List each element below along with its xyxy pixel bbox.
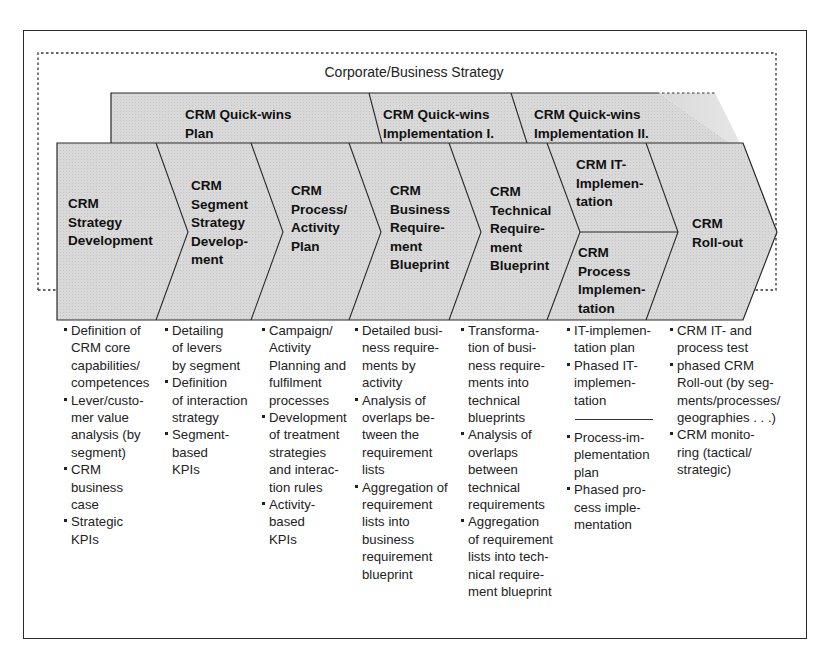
activity-item: Development of treatment strategies and … bbox=[262, 409, 347, 496]
activities-segment-strategy: Detailing of levers by segment Definitio… bbox=[165, 322, 248, 479]
phase-it-implementation: CRM IT- Implemen- tation bbox=[576, 156, 644, 212]
activity-item: Activity- based KPIs bbox=[262, 496, 347, 548]
activity-item: Phased IT- implemen- tation bbox=[567, 357, 653, 409]
activity-item: CRM IT- and process test bbox=[670, 322, 780, 357]
activities-roll-out: CRM IT- and process test phased CRM Roll… bbox=[670, 322, 780, 479]
corporate-strategy-label: Corporate/Business Strategy bbox=[0, 64, 828, 80]
activities-strategy-development: Definition of CRM core capabilities/ com… bbox=[64, 322, 149, 548]
quick-wins-plan-label: CRM Quick-wins Plan bbox=[185, 106, 292, 143]
activity-item: Campaign/ Activity Planning and fulfilme… bbox=[262, 322, 347, 409]
activity-item: IT-implemen- tation plan bbox=[567, 322, 653, 357]
phase-process-activity-plan: CRM Process/ Activity Plan bbox=[291, 182, 347, 256]
phase-strategy-development: CRM Strategy Development bbox=[68, 195, 153, 251]
activity-item: Phased pro- cess imple- mentation bbox=[567, 481, 653, 533]
activity-item: Definition of CRM core capabilities/ com… bbox=[64, 322, 149, 392]
activity-item: Segment- based KPIs bbox=[165, 426, 248, 478]
activity-item: Detailing of levers by segment bbox=[165, 322, 248, 374]
activity-item: Process-im- plementation plan bbox=[567, 429, 653, 481]
activity-item: Aggregation of requirement lists into te… bbox=[461, 513, 553, 600]
activity-item: phased CRM Roll-out (by seg- ments/proce… bbox=[670, 357, 780, 427]
activity-item: CRM monito- ring (tactical/ strategic) bbox=[670, 426, 780, 478]
activity-item: Lever/custo- mer value analysis (by segm… bbox=[64, 392, 149, 462]
activity-item: Analysis of overlaps between technical r… bbox=[461, 426, 553, 513]
quick-wins-impl-2-label: CRM Quick-wins Implementation II. bbox=[534, 106, 649, 143]
phase-technical-requirement-blueprint: CRM Technical Require- ment Blueprint bbox=[490, 183, 551, 276]
phase-process-implementation: CRM Process Implemen- tation bbox=[578, 244, 646, 318]
activities-business-requirement-blueprint: Detailed busi- ness require- ments by ac… bbox=[355, 322, 448, 583]
activity-item: Transforma- tion of busi- ness require- … bbox=[461, 322, 553, 426]
activity-item: Analysis of overlaps be- tween the requi… bbox=[355, 392, 448, 479]
activity-item: CRM business case bbox=[64, 461, 149, 513]
activity-item: Detailed busi- ness require- ments by ac… bbox=[355, 322, 448, 392]
activity-item: Aggregation of requirement lists into bu… bbox=[355, 479, 448, 583]
phase-roll-out: CRM Roll-out bbox=[692, 215, 743, 252]
phase-segment-strategy: CRM Segment Strategy Develop- ment bbox=[191, 177, 248, 270]
activity-item: Strategic KPIs bbox=[64, 513, 149, 548]
activities-technical-requirement-blueprint: Transforma- tion of busi- ness require- … bbox=[461, 322, 553, 601]
activities-implementation: IT-implemen- tation plan Phased IT- impl… bbox=[567, 322, 653, 533]
it-process-divider bbox=[575, 419, 653, 420]
activity-item: Definition of interaction strategy bbox=[165, 374, 248, 426]
activities-process-activity-plan: Campaign/ Activity Planning and fulfilme… bbox=[262, 322, 347, 548]
quick-wins-impl-1-label: CRM Quick-wins Implementation I. bbox=[383, 106, 494, 143]
phase-business-requirement-blueprint: CRM Business Require- ment Blueprint bbox=[390, 182, 450, 275]
